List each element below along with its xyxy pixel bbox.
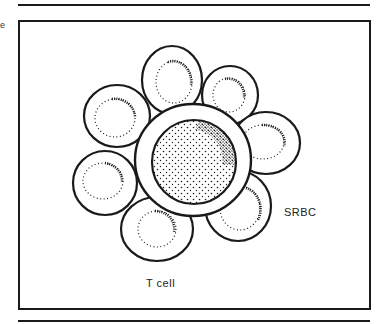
rosette-diagram	[0, 0, 385, 324]
t-cell-label: T cell	[146, 277, 175, 289]
srbc-label: SRBC	[284, 206, 317, 218]
bottom-rule	[18, 320, 370, 322]
srbc-left	[73, 151, 137, 215]
t-cell	[135, 104, 251, 216]
